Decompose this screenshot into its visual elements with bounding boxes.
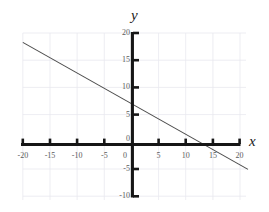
x-tick-label: -5 (101, 152, 108, 160)
y-tick-label: -10 (119, 192, 130, 200)
graph-figure: y x -20 -15 -10 -5 0 5 10 15 20 20 15 10… (0, 0, 269, 212)
plot-area (0, 0, 269, 212)
y-tick-label: 10 (122, 83, 130, 91)
x-tick-label: 20 (236, 152, 244, 160)
x-tick-label: 15 (209, 152, 217, 160)
y-tick-label: 15 (122, 56, 130, 64)
y-tick-label: 0 (126, 135, 130, 143)
y-tick-label: 20 (122, 29, 130, 37)
x-axis (21, 139, 241, 145)
x-tick-label: 5 (157, 152, 161, 160)
x-tick-label: 0 (123, 152, 127, 160)
gridlines-group (23, 33, 246, 200)
x-tick-label: -20 (17, 152, 28, 160)
y-axis (132, 32, 139, 198)
x-tick-label: -10 (72, 152, 83, 160)
y-axis-label: y (131, 8, 138, 23)
x-axis-label: x (249, 134, 256, 149)
y-tick-label: -5 (123, 165, 130, 173)
x-tick-label: 10 (182, 152, 190, 160)
x-tick-label: -15 (45, 152, 56, 160)
y-tick-label: 5 (126, 111, 130, 119)
